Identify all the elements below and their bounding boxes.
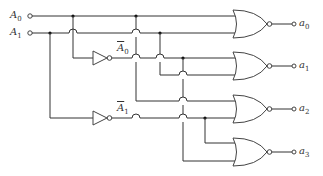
inverted-label-a1: A1 [117,103,129,116]
wire-not-a1 [112,114,236,118]
nor-gate-3 [233,138,296,166]
wire-not-a1-to-gate4 [205,118,236,143]
inverted-label-a0: A0 [117,43,129,56]
nor-gate-2 [233,95,296,123]
decoder-circuit [0,0,323,176]
not-gate-a1 [93,111,107,125]
wire-not-a0 [112,54,236,58]
nor-gate-1 [233,52,296,80]
input-label-a1: A1 [10,27,22,40]
wire-not-a0-to-gate4 [183,122,236,161]
output-label-a3: a3 [299,146,309,159]
wire-a1 [32,29,236,33]
output-label-a0: a0 [299,18,309,31]
inversion-bubble [107,56,112,61]
wire-a1-to-not [50,33,93,118]
wire-a1-to-gate2 [160,62,236,75]
output-label-a1: a1 [299,60,309,73]
input-terminal-a1 [28,31,32,35]
wire-a0-to-not [73,16,93,58]
wire-a0-to-gate3 [136,62,236,101]
input-terminal-a0 [28,14,32,18]
not-gate-a0 [93,51,107,65]
nor-gate-0 [233,10,296,38]
output-label-a2: a2 [299,103,309,116]
input-label-a0: A0 [10,10,22,23]
inversion-bubble [107,116,112,121]
